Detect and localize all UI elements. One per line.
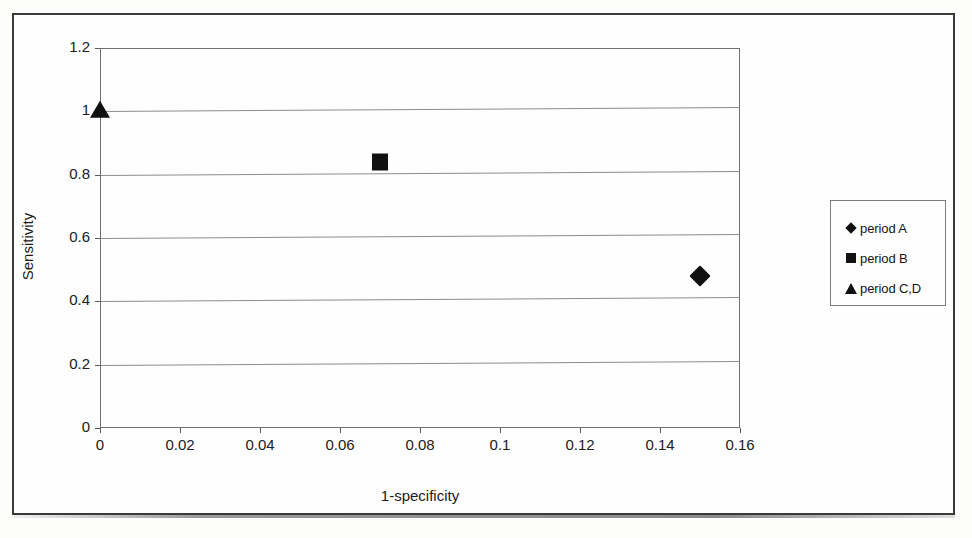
- x-axis-tick-label: 0.12: [550, 436, 610, 453]
- y-axis-tick: [95, 301, 100, 302]
- legend-square-icon: [845, 251, 859, 265]
- y-axis-title: Sensitivity: [19, 177, 36, 317]
- x-axis-tick-label: 0.08: [390, 436, 450, 453]
- y-axis-tick-label: 0: [30, 418, 90, 435]
- x-axis-tick: [340, 428, 341, 433]
- x-axis-tick: [500, 428, 501, 433]
- legend-item-label: period B: [860, 251, 908, 266]
- y-axis-tick-label: 0.2: [30, 355, 90, 372]
- legend-item[interactable]: period A: [845, 213, 945, 243]
- data-point-square: [372, 154, 388, 171]
- legend-item[interactable]: period B: [845, 243, 945, 273]
- y-axis-tick: [95, 238, 100, 239]
- x-axis-tick: [180, 428, 181, 433]
- x-axis-title: 1-specificity: [100, 487, 740, 504]
- x-axis-tick: [100, 428, 101, 433]
- legend-item[interactable]: period C,D: [845, 273, 945, 303]
- y-axis-tick: [95, 365, 100, 366]
- x-axis-tick-label: 0.1: [470, 436, 530, 453]
- x-axis-tick-label: 0.16: [710, 436, 770, 453]
- y-axis-tick-label: 1: [30, 101, 90, 118]
- y-axis-tick-label: 1.2: [30, 38, 90, 55]
- scanned-page: 00.020.040.060.080.10.120.140.16 00.20.4…: [0, 0, 972, 538]
- x-axis-tick: [740, 428, 741, 433]
- x-axis-tick: [660, 428, 661, 433]
- x-axis-tick-label: 0.04: [230, 436, 290, 453]
- y-axis-tick: [95, 428, 100, 429]
- x-axis-tick: [420, 428, 421, 433]
- roc-scatter-chart: 00.020.040.060.080.10.120.140.16 00.20.4…: [0, 0, 972, 538]
- legend-item-label: period C,D: [860, 281, 921, 296]
- y-axis-tick-label: 0.4: [30, 291, 90, 308]
- chart-legend: period Aperiod Bperiod C,D: [830, 200, 946, 306]
- legend-triangle-icon: [845, 281, 859, 295]
- y-axis-tick-label: 0.8: [30, 165, 90, 182]
- x-axis-tick-label: 0.02: [150, 436, 210, 453]
- y-axis-tick: [95, 175, 100, 176]
- plot-area-frame: [100, 48, 740, 428]
- y-axis-tick: [95, 48, 100, 49]
- x-axis-tick: [580, 428, 581, 433]
- legend-diamond-icon: [845, 221, 859, 235]
- x-axis-tick-label: 0.14: [630, 436, 690, 453]
- y-axis-tick-label: 0.6: [30, 228, 90, 245]
- x-axis-tick: [260, 428, 261, 433]
- x-axis-tick-label: 0.06: [310, 436, 370, 453]
- legend-item-label: period A: [860, 221, 907, 236]
- data-point-triangle: [90, 101, 110, 118]
